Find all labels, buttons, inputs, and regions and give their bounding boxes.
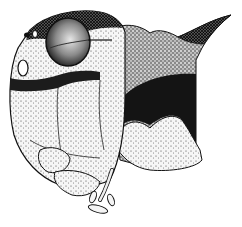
palp-segment-2 xyxy=(106,193,116,206)
lateral-ocellus-icon xyxy=(18,60,28,76)
illustration-stage: Lateral view of an orthopteran insect he… xyxy=(0,0,242,227)
pronotal-horn xyxy=(178,15,231,44)
palp-segment xyxy=(87,203,108,215)
insect-head-illustration xyxy=(0,0,242,227)
compound-eye xyxy=(46,18,90,66)
ocellus-icon xyxy=(33,31,38,38)
antennal-socket-icon xyxy=(24,33,30,38)
